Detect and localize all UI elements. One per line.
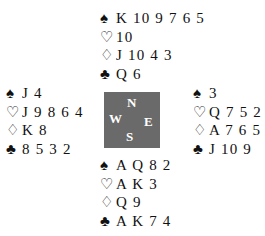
south-clubs: ♣A K 7 4 xyxy=(100,212,172,231)
club-icon: ♣ xyxy=(100,212,116,231)
west-diamonds: ♢K 8 xyxy=(6,121,84,140)
heart-icon: ♡ xyxy=(100,28,116,47)
north-clubs: ♣Q 6 xyxy=(100,65,205,84)
club-icon: ♣ xyxy=(193,140,209,159)
east-hearts: ♡Q 7 5 2 xyxy=(193,103,265,122)
east-diamonds: ♢A 7 6 5 2 xyxy=(193,121,265,140)
diamond-icon: ♢ xyxy=(6,121,22,140)
compass-east: E xyxy=(144,114,153,130)
west-spades: ♠J 4 xyxy=(6,84,84,103)
compass-box: N W E S xyxy=(104,92,160,148)
north-hand: ♠K 10 9 7 6 5 ♡10 ♢J 10 4 3 ♣Q 6 xyxy=(100,9,205,83)
diamond-icon: ♢ xyxy=(100,46,116,65)
diamond-icon: ♢ xyxy=(100,193,116,212)
west-hand: ♠J 4 ♡J 9 8 6 4 ♢K 8 ♣8 5 3 2 xyxy=(6,84,84,158)
south-hearts: ♡A K 3 xyxy=(100,175,172,194)
diamond-icon: ♢ xyxy=(193,121,209,140)
compass-west: W xyxy=(109,111,122,127)
compass-north: N xyxy=(127,95,136,111)
south-diamonds: ♢Q 9 xyxy=(100,193,172,212)
north-spades: ♠K 10 9 7 6 5 xyxy=(100,9,205,28)
west-clubs: ♣8 5 3 2 xyxy=(6,140,84,159)
north-diamonds: ♢J 10 4 3 xyxy=(100,46,205,65)
east-hand: ♠3 ♡Q 7 5 2 ♢A 7 6 5 2 ♣J 10 9 xyxy=(193,84,265,158)
spade-icon: ♠ xyxy=(100,156,116,175)
spade-icon: ♠ xyxy=(100,9,116,28)
spade-icon: ♠ xyxy=(193,84,209,103)
west-hearts: ♡J 9 8 6 4 xyxy=(6,103,84,122)
heart-icon: ♡ xyxy=(193,103,209,122)
heart-icon: ♡ xyxy=(100,175,116,194)
spade-icon: ♠ xyxy=(6,84,22,103)
south-spades: ♠A Q 8 2 xyxy=(100,156,172,175)
compass-south: S xyxy=(126,129,133,145)
east-clubs: ♣J 10 9 xyxy=(193,140,265,159)
south-hand: ♠A Q 8 2 ♡A K 3 ♢Q 9 ♣A K 7 4 xyxy=(100,156,172,230)
east-spades: ♠3 xyxy=(193,84,265,103)
north-hearts: ♡10 xyxy=(100,28,205,47)
club-icon: ♣ xyxy=(6,140,22,159)
club-icon: ♣ xyxy=(100,65,116,84)
heart-icon: ♡ xyxy=(6,103,22,122)
